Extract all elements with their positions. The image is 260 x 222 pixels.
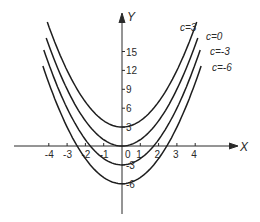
curve-label: c=0 <box>206 31 223 42</box>
x-axis-label: X <box>239 140 249 154</box>
curve-label: c=-3 <box>210 46 230 57</box>
x-axis-arrow-icon <box>229 143 238 149</box>
y-tick-label: 3 <box>126 122 132 133</box>
y-tick-label: 6 <box>126 103 132 114</box>
x-tick-label: 2 <box>155 149 161 160</box>
x-tick-label: 4 <box>191 149 197 160</box>
y-axis-arrow-icon <box>119 13 125 23</box>
curve-label: c=-6 <box>212 62 232 73</box>
y-axis-label: Y <box>127 10 136 24</box>
x-tick-label: -3 <box>63 149 72 160</box>
x-tick-label: 3 <box>173 149 179 160</box>
y-tick-label: 15 <box>126 47 138 58</box>
parabola-family-chart: -4-3-2-101234 -6-33691215 c=3c=0c=-3c=-6… <box>0 0 260 222</box>
x-tick-label: -4 <box>45 149 54 160</box>
y-tick-label: 12 <box>126 65 138 76</box>
y-tick-label: 9 <box>126 84 132 95</box>
x-tick-label: 0 <box>125 149 131 160</box>
y-ticks: -6-33691215 <box>122 47 138 190</box>
curve-label: c=3 <box>180 22 197 33</box>
